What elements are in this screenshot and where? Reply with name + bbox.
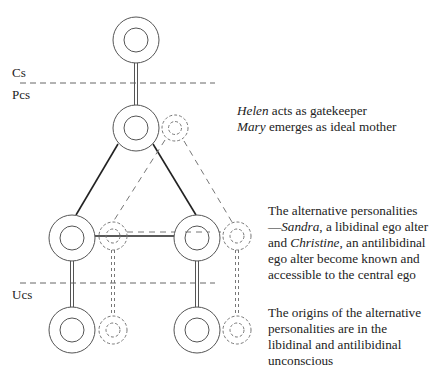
helen-text: acts as gatekeeper [269, 103, 367, 118]
sandra-name: Sandra [281, 219, 319, 234]
top-to-middle-connector [135, 63, 138, 105]
origins-annotation: The origins of the alternative personali… [268, 305, 429, 366]
right-vertical-connector [196, 261, 199, 307]
label-unconscious: Ucs [12, 287, 32, 303]
central-ego-circle [113, 105, 159, 151]
ego-triangle [76, 144, 196, 236]
left-vertical-connector [71, 261, 74, 307]
origins-text: The origins of the alternative personali… [268, 305, 421, 366]
libidinal-unconscious-alter-circle [99, 316, 127, 344]
mary-name: Mary [237, 119, 266, 134]
libidinal-ego-circle [49, 215, 95, 261]
mary-text: emerges as ideal mother [266, 119, 397, 134]
alter-triangle [113, 140, 232, 232]
label-preconscious: Pcs [12, 87, 30, 103]
antilibidinal-unconscious-circle [174, 307, 220, 353]
antilibidinal-ego-circle [174, 215, 220, 261]
christine-alter-circle [223, 222, 251, 250]
christine-name: Christine [290, 235, 339, 250]
antilibidinal-unconscious-alter-circle [223, 316, 251, 344]
helen-name: Helen [237, 103, 269, 118]
alternatives-annotation: The alternative personalities—Sandra, a … [268, 203, 429, 283]
top-ego-circle [113, 17, 159, 63]
right-alter-vertical-connector [236, 250, 239, 316]
label-conscious: Cs [12, 65, 26, 81]
libidinal-unconscious-circle [49, 307, 95, 353]
gatekeeper-annotation: Helen acts as gatekeeper Mary emerges as… [237, 103, 412, 135]
gatekeeper-alter-circle [162, 115, 188, 141]
